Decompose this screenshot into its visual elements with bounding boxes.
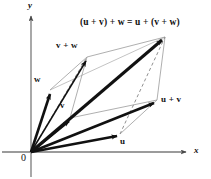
guide-uv-to-sum [157,37,165,100]
label-w: w [34,75,41,84]
label-y-axis: y [28,1,32,10]
vector-uv-arrow [31,103,154,152]
vector-u-arrow [31,136,117,152]
label-v: v [60,101,65,110]
guide-v-to-vw [70,57,87,118]
label-u-plus-v: u + v [161,95,181,104]
guide-w-to-vw [50,57,87,90]
label-v-plus-w: v + w [56,41,78,50]
vector-arrows-group [31,40,162,152]
label-x-axis: x [194,146,199,155]
label-u: u [120,137,125,146]
sum-equation-label: (u + v) + w = u + (v + w) [80,18,180,28]
label-origin: 0 [21,153,26,163]
figure-canvas: (u + v) + w = u + (v + w) v + w w v u + … [0,0,211,179]
dashed-u-to-sum [120,37,165,134]
